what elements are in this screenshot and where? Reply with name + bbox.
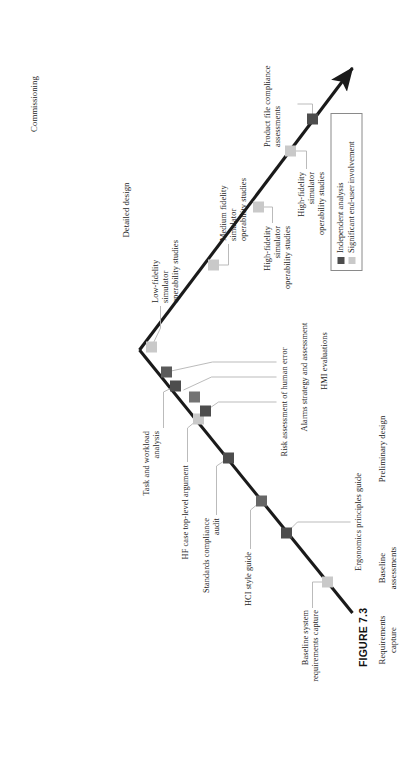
legend-item-independent-analysis: Independent analysis [336, 121, 344, 264]
marker-task-workload [170, 381, 181, 392]
annotation-high-fidelity-simulator-operability-studies-2: High-fidelity simulator operability stud… [296, 172, 325, 280]
legend-swatch-end-user-involvement [348, 257, 355, 264]
marker-risk-assessment [200, 406, 211, 417]
marker-hmi-evaluations [161, 367, 172, 378]
legend-label-independent-analysis: Independent analysis [336, 183, 344, 253]
stage-label-preliminary-design: Preliminary design [376, 394, 387, 504]
annotation-alarms-strategy-and-assessment: Alarms strategy and assessment [299, 289, 309, 465]
annotation-high-fidelity-simulator-operability-studies-1: High-fidelity simulator operability stud… [262, 226, 291, 334]
marker-high-fidelity-1 [253, 202, 264, 213]
legend-label-end-user-involvement: Significant end-user involvement [347, 141, 355, 253]
marker-product-file [307, 114, 318, 125]
annotation-risk-assessment-of-human-error: Risk assessment of human error [279, 316, 289, 488]
annotation-product-file-compliance-assessments: Product file compliance assessments [262, 15, 282, 147]
lifecycle-v-diagram: Requirements capture Baseline assessment… [0, 0, 399, 758]
annotation-baseline-system-requirements-capture: Baseline system requirements capture [300, 610, 320, 734]
marker-medium-fidelity [208, 260, 219, 271]
stage-label-commissioning: Commissioning [28, 49, 39, 159]
annotation-task-and-workload-analysis: Task and workload analysis [141, 431, 161, 536]
annotation-hmi-evaluations: HMI evaluations [319, 316, 329, 406]
marker-standards-compliance [223, 453, 234, 464]
stage-label-baseline-assessments: Baseline assessments [376, 526, 397, 610]
marker-alarms-strategy [189, 392, 200, 403]
marker-high-fidelity-2 [285, 146, 296, 157]
legend-item-end-user-involvement: Significant end-user involvement [347, 121, 355, 264]
marker-hci-style-guide [256, 496, 267, 507]
annotation-hci-style-guide: HCI style guide [243, 552, 253, 646]
stage-label-requirements-capture: Requirements capture [376, 598, 397, 682]
annotation-low-fidelity-simulator-operability-studies: Low-fidelity simulator operability studi… [150, 193, 179, 303]
marker-ergonomics-principles [281, 528, 292, 539]
marker-baseline-requirements [322, 577, 333, 588]
stage-label-detailed-design: Detailed design [120, 155, 131, 265]
annotation-standards-compliance-audit: Standards compliance audit [201, 518, 221, 620]
legend-swatch-independent-analysis [337, 257, 344, 264]
annotation-ergonomics-principles-guide: Ergonomics principles guide [353, 452, 363, 592]
marker-low-fidelity [146, 342, 157, 353]
figure-page: Requirements capture Baseline assessment… [0, 0, 399, 758]
legend: Independent analysis Significant end-use… [330, 113, 362, 271]
figure-caption: FIGURE 7.3 [357, 608, 369, 667]
annotation-hf-case-top-level-argument: HF case top-level argument [180, 465, 190, 608]
annotation-medium-fidelity-simulator-operability-studies: Medium fidelity simulator operability st… [218, 131, 247, 241]
